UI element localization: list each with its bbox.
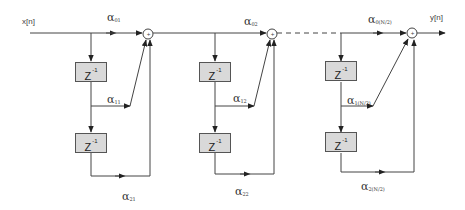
coef-alpha02: α02 [244,16,258,27]
adder-n-plus: + [410,30,414,36]
delay-block-1a: Z-1 [75,62,107,82]
coef-alpha12: α12 [233,93,247,104]
coef-alpha01: α01 [107,12,121,23]
coef-alpha0n: α0(N/2) [368,14,392,25]
coef-alpha11: α11 [107,94,121,105]
coef-alpha1n: α1(N/2) [347,95,371,106]
diagram-canvas: + + + [0,0,465,210]
adder-2-plus: + [270,31,274,37]
adder-1-plus: + [146,31,150,37]
input-label: x[n] [22,18,35,26]
delay-block-na: Z-1 [325,61,357,81]
delay-block-2b: Z-1 [199,133,231,153]
delay-block-1b: Z-1 [75,133,107,153]
delay-block-nb: Z-1 [325,132,357,152]
coef-alpha2n: α2(N/2) [361,181,385,192]
coef-alpha22: α22 [235,186,249,197]
coef-alpha21: α21 [122,191,136,202]
delay-block-2a: Z-1 [199,62,231,82]
output-label: y[n] [430,14,443,22]
